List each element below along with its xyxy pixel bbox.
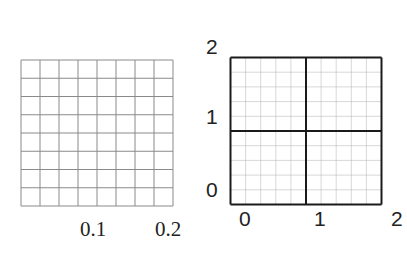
right-y-label-0: 0 — [206, 179, 218, 200]
right-x-label-2: 2 — [391, 208, 403, 229]
left-x-label-0.2: 0.2 — [155, 219, 181, 240]
right-x-label-1: 1 — [314, 208, 326, 229]
left-grid — [20, 59, 174, 207]
right-grid — [229, 56, 383, 206]
right-x-label-0: 0 — [239, 208, 251, 229]
right-y-label-2: 2 — [206, 36, 218, 57]
left-x-label-0.1: 0.1 — [80, 219, 106, 240]
right-y-label-1: 1 — [206, 106, 218, 127]
